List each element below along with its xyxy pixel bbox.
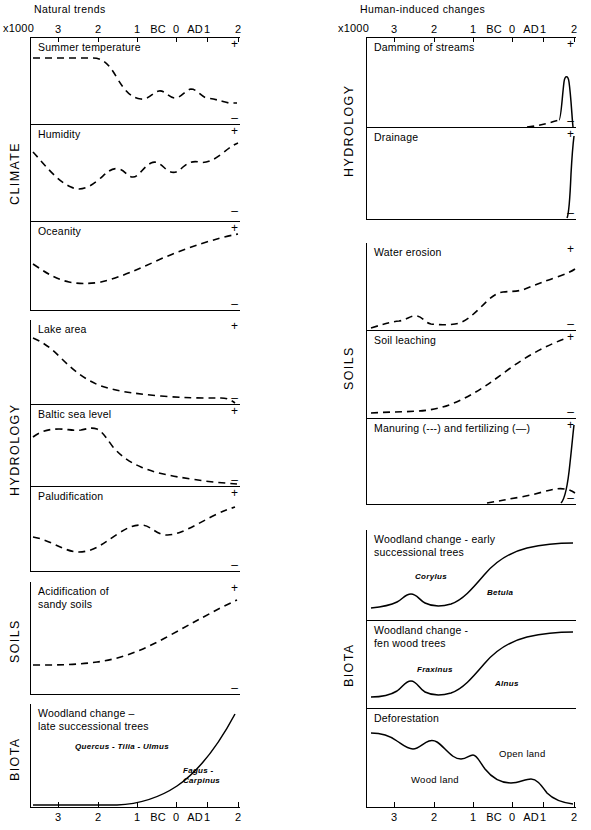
group-baseline (30, 694, 240, 695)
panel-stack-soils-human: Water erosion + – Soil leaching + – Manu… (366, 243, 576, 504)
axis-tick-label: AD (187, 23, 202, 35)
panel-lake-area[interactable]: Lake area + – (31, 320, 240, 405)
series-curve-drainage (367, 128, 577, 219)
axis-tick-label: 3 (391, 23, 397, 35)
axis-tick-label: 0 (509, 23, 515, 35)
panel-manuring-fertilizing[interactable]: Manuring (---) and fertilizing (—) + – (367, 419, 576, 504)
axis-tick (176, 802, 177, 807)
axis-tick-label: BC (150, 811, 165, 823)
axis-tick (473, 802, 474, 807)
panel-damming-of-streams[interactable]: Damming of streams + – (367, 38, 576, 128)
axis-tick-label: 2 (95, 23, 101, 35)
axis-tick-label: 1 (470, 23, 476, 35)
axis-tick-label: 1 (540, 23, 546, 35)
panel-stack-biota: Woodland change – late successional tree… (30, 704, 240, 807)
axis-tick-label: BC (150, 23, 165, 35)
axis-tick (58, 802, 59, 807)
bottom-axis-natural: 3 2 1 BC 0 AD 1 2 (30, 807, 240, 823)
axis-tick-label: 2 (235, 23, 241, 35)
series-curve-water-erosion (367, 243, 577, 331)
group-hydrology-human: HYDROLOGY Damming of streams + – Drainag… (296, 38, 586, 219)
panel-summer-temperature[interactable]: Summer temperature + – (31, 38, 240, 125)
panel-water-erosion[interactable]: Water erosion + – (367, 243, 576, 331)
axis-tick-label: AD (187, 811, 202, 823)
axis-tick-label: 2 (235, 811, 241, 823)
series-curve-humidity (31, 125, 241, 222)
axis-tick-label: 2 (571, 811, 577, 823)
panel-stack-soils: Acidification of sandy soils + – (30, 582, 240, 694)
scale-label-human: x1000 (338, 22, 369, 34)
panel-paludification[interactable]: Paludification + – (31, 487, 240, 571)
group-soils-human: SOILS Water erosion + – Soil leaching + … (296, 243, 586, 504)
group-label-hydrology: HYDROLOGY (8, 350, 22, 550)
panel-stack-climate: Summer temperature + – Humidity + – Ocea… (30, 38, 240, 310)
series-curve-summer-temperature (31, 38, 241, 125)
group-label-biota: BIOTA (342, 590, 356, 740)
axis-tick (512, 802, 513, 807)
axis-tick-label: 1 (134, 811, 140, 823)
axis-tick (238, 802, 239, 807)
panel-woodland-fen-wood[interactable]: Woodland change - fen wood trees Fraxinu… (367, 621, 576, 709)
group-baseline (30, 571, 240, 572)
axis-tick-label: 1 (134, 23, 140, 35)
axis-tick-label: 0 (173, 23, 179, 35)
group-label-soils: SOILS (8, 606, 22, 676)
series-curve-damming (367, 38, 577, 128)
series-curve-fen-wood (367, 621, 577, 709)
series-curve-manuring-fertilizing (367, 419, 577, 504)
group-label-climate: CLIMATE (8, 78, 22, 268)
panel-stack-hydrology: Lake area + – Baltic sea level + – Palud… (30, 320, 240, 571)
panel-acidification-sandy-soils[interactable]: Acidification of sandy soils + – (31, 582, 240, 694)
column-human-induced-changes: Human-induced changes x1000 3 2 1 BC 0 A… (296, 0, 591, 830)
series-curve-oceanity (31, 222, 241, 310)
group-biota-natural: BIOTA Woodland change – late successiona… (0, 704, 250, 807)
panel-stack-hydrology-human: Damming of streams + – Drainage + – (366, 38, 576, 219)
panel-woodland-late-successional[interactable]: Woodland change – late successional tree… (31, 704, 240, 807)
axis-tick-label: 0 (509, 811, 515, 823)
panel-woodland-early-successional[interactable]: Woodland change - early successional tre… (367, 530, 576, 621)
panel-drainage[interactable]: Drainage + – (367, 128, 576, 219)
series-curve-early-successional (367, 530, 577, 621)
axis-line (30, 807, 240, 808)
group-hydrology-natural: HYDROLOGY Lake area + – Baltic sea level… (0, 320, 250, 571)
panel-soil-leaching[interactable]: Soil leaching + – (367, 331, 576, 419)
axis-tick-label: 1 (540, 811, 546, 823)
axis-tick (394, 802, 395, 807)
axis-tick-label: BC (486, 811, 501, 823)
axis-tick-label: AD (523, 23, 538, 35)
group-biota-human: BIOTA Woodland change - early succession… (296, 530, 586, 807)
axis-tick-label: 2 (431, 811, 437, 823)
axis-tick-label: 2 (571, 23, 577, 35)
group-label-biota: BIOTA (8, 726, 22, 792)
series-curve-acidification (31, 582, 241, 694)
axis-tick-label: BC (486, 23, 501, 35)
axis-line (366, 807, 576, 808)
axis-tick-label: 3 (391, 811, 397, 823)
group-baseline (30, 310, 240, 311)
axis-tick (543, 802, 544, 807)
group-label-hydrology: HYDROLOGY (342, 56, 356, 206)
axis-tick (574, 802, 575, 807)
axis-tick-label: 3 (55, 23, 61, 35)
axis-tick (434, 802, 435, 807)
panel-stack-biota-human: Woodland change - early successional tre… (366, 530, 576, 807)
group-climate-natural: CLIMATE Summer temperature + – Humidity … (0, 38, 250, 310)
group-baseline (366, 219, 576, 220)
series-curve-lake-area (31, 320, 241, 405)
axis-tick-label: 0 (173, 811, 179, 823)
panel-baltic-sea-level[interactable]: Baltic sea level + – (31, 405, 240, 487)
group-label-soils: SOILS (342, 313, 356, 423)
axis-tick (207, 802, 208, 807)
panel-humidity[interactable]: Humidity + – (31, 125, 240, 222)
panel-deforestation[interactable]: Deforestation Open land Wood land (367, 709, 576, 807)
axis-tick (137, 802, 138, 807)
axis-tick-label: 1 (204, 811, 210, 823)
column-title-natural: Natural trends (34, 3, 106, 15)
series-curve-late-successional (31, 704, 241, 807)
series-curve-deforestation (367, 709, 577, 807)
panel-oceanity[interactable]: Oceanity + – (31, 222, 240, 310)
column-natural-trends: Natural trends x1000 3 2 1 BC 0 AD 1 2 C… (0, 0, 295, 830)
column-title-human: Human-induced changes (360, 3, 485, 15)
axis-tick-label: 1 (204, 23, 210, 35)
series-curve-paludification (31, 487, 241, 571)
